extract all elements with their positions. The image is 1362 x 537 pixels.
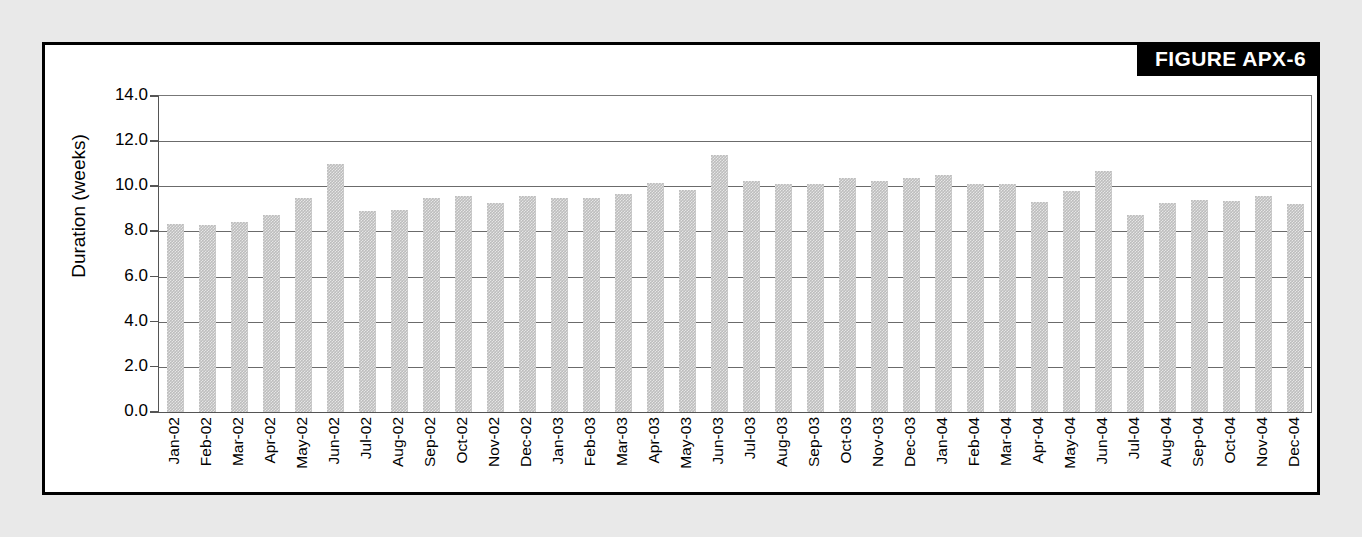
- y-axis-tick-mark: [150, 366, 158, 368]
- x-axis-tick-label: Dec-04: [1285, 417, 1303, 467]
- bar: [775, 184, 792, 412]
- x-axis-label-slot: Apr-03: [646, 413, 663, 493]
- x-axis-label-slot: Mar-04: [998, 413, 1015, 493]
- x-axis-tick-label: Mar-03: [613, 417, 631, 466]
- x-axis-tick-label: Sep-02: [421, 417, 439, 467]
- x-axis-tick-label: Aug-02: [389, 417, 407, 467]
- x-axis-label-slot: Apr-02: [262, 413, 279, 493]
- x-axis-tick-label: Aug-03: [773, 417, 791, 467]
- x-axis-label-slot: Mar-03: [614, 413, 631, 493]
- x-axis-tick-label: Apr-04: [1029, 417, 1047, 464]
- x-axis-tick-label: Jan-04: [933, 417, 951, 464]
- bar: [871, 181, 888, 412]
- bar: [999, 184, 1016, 412]
- x-axis-label-slot: Feb-04: [966, 413, 983, 493]
- bar: [583, 198, 600, 412]
- bar: [711, 155, 728, 412]
- x-axis-tick-label: Sep-03: [805, 417, 823, 467]
- y-axis-tick-label: 8.0: [92, 220, 148, 240]
- x-axis-label-slot: Jan-04: [934, 413, 951, 493]
- y-axis-tick-label: 10.0: [92, 175, 148, 195]
- y-axis-tick-mark: [150, 230, 158, 232]
- y-axis-tick-label: 6.0: [92, 266, 148, 286]
- bar: [455, 196, 472, 412]
- x-axis-tick-label: Sep-04: [1189, 417, 1207, 467]
- x-axis-label-slot: Sep-02: [422, 413, 439, 493]
- x-axis-label-slot: Jun-04: [1094, 413, 1111, 493]
- x-axis-label-slot: May-03: [678, 413, 695, 493]
- figure-panel: FIGURE APX-6 Duration (weeks) 14.012.010…: [42, 42, 1320, 495]
- bar: [519, 196, 536, 412]
- x-axis-tick-label: Jul-02: [357, 417, 375, 459]
- bar-chart: Duration (weeks) 14.012.010.08.06.04.02.…: [45, 45, 1317, 492]
- x-axis-tick-label: Mar-02: [229, 417, 247, 466]
- x-axis-label-slot: Nov-02: [486, 413, 503, 493]
- bar: [743, 181, 760, 412]
- x-axis-tick-label: Nov-04: [1253, 417, 1271, 467]
- y-axis-tick-label: 14.0: [92, 85, 148, 105]
- bar: [1191, 200, 1208, 412]
- bar: [935, 175, 952, 412]
- x-axis-label-slot: Dec-02: [518, 413, 535, 493]
- x-axis-tick-label: Jul-03: [741, 417, 759, 459]
- bar: [839, 178, 856, 412]
- x-axis-tick-label: May-04: [1061, 417, 1079, 469]
- x-axis-label-slot: Jul-04: [1126, 413, 1143, 493]
- x-axis-label-slot: Oct-03: [838, 413, 855, 493]
- bar: [551, 198, 568, 412]
- bar: [231, 222, 248, 412]
- bar: [487, 203, 504, 412]
- x-axis-label-slot: Feb-02: [198, 413, 215, 493]
- x-axis-tick-label: Dec-03: [901, 417, 919, 467]
- bar: [679, 190, 696, 412]
- x-axis-label-slot: Jan-03: [550, 413, 567, 493]
- bar: [1255, 196, 1272, 412]
- x-axis-tick-label: Feb-04: [965, 417, 983, 466]
- x-axis-label-slot: Oct-04: [1222, 413, 1239, 493]
- figure-page: FIGURE APX-6 Duration (weeks) 14.012.010…: [0, 0, 1362, 537]
- x-axis-labels: Jan-02Feb-02Mar-02Apr-02May-02Jun-02Jul-…: [158, 413, 1310, 493]
- x-axis-label-slot: Apr-04: [1030, 413, 1047, 493]
- bar: [807, 184, 824, 412]
- y-axis-tick-mark: [150, 95, 158, 97]
- x-axis-tick-label: Nov-03: [869, 417, 887, 467]
- x-axis-label-slot: Jul-03: [742, 413, 759, 493]
- y-axis-tick-mark: [150, 276, 158, 278]
- bar: [263, 215, 280, 413]
- x-axis-label-slot: Dec-03: [902, 413, 919, 493]
- x-axis-tick-label: Dec-02: [517, 417, 535, 467]
- y-axis-tick-label: 2.0: [92, 356, 148, 376]
- bar: [967, 184, 984, 412]
- x-axis-label-slot: Nov-03: [870, 413, 887, 493]
- x-axis-tick-label: Feb-03: [581, 417, 599, 466]
- x-axis-label-slot: Mar-02: [230, 413, 247, 493]
- x-axis-tick-label: Oct-02: [453, 417, 471, 464]
- bar: [1095, 171, 1112, 413]
- x-axis-tick-label: Feb-02: [197, 417, 215, 466]
- y-axis-tick-mark: [150, 411, 158, 413]
- bar: [1127, 215, 1144, 413]
- y-axis-tick-label: 0.0: [92, 401, 148, 421]
- y-axis-tick-label: 12.0: [92, 130, 148, 150]
- x-axis-label-slot: Dec-04: [1286, 413, 1303, 493]
- x-axis-label-slot: Jun-02: [326, 413, 343, 493]
- x-axis-tick-label: Mar-04: [997, 417, 1015, 466]
- x-axis-tick-label: Apr-02: [261, 417, 279, 464]
- y-axis-tick-mark: [150, 321, 158, 323]
- x-axis-label-slot: Oct-02: [454, 413, 471, 493]
- bar: [615, 194, 632, 412]
- bar: [1031, 202, 1048, 412]
- bar: [1223, 201, 1240, 412]
- bar: [647, 183, 664, 412]
- y-axis-tick-mark: [150, 185, 158, 187]
- x-axis-tick-label: Jun-03: [709, 417, 727, 464]
- bar: [423, 198, 440, 412]
- x-axis-label-slot: Aug-03: [774, 413, 791, 493]
- y-axis-ticks: [150, 95, 158, 411]
- x-axis-tick-label: Oct-04: [1221, 417, 1239, 464]
- x-axis-label-slot: Aug-04: [1158, 413, 1175, 493]
- bar: [167, 224, 184, 412]
- bar: [359, 211, 376, 412]
- plot-area: [158, 95, 1312, 413]
- bar: [199, 225, 216, 412]
